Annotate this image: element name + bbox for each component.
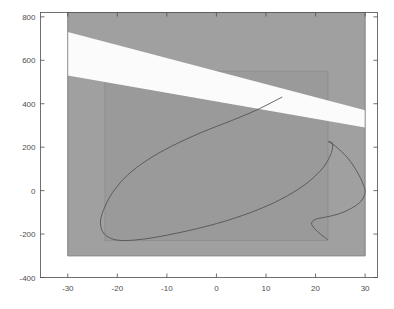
y-tick-label: 800 <box>22 13 36 22</box>
figure-container: -30-20-100102030-400-2000200400600800 <box>0 0 394 309</box>
y-tick-label: 0 <box>31 187 36 196</box>
y-tick-label: 200 <box>22 143 36 152</box>
x-tick-label: 20 <box>311 284 320 293</box>
chart-canvas: -30-20-100102030-400-2000200400600800 <box>0 0 394 309</box>
plot-regions-group <box>41 13 378 278</box>
y-tick-label: -400 <box>19 274 36 283</box>
x-tick-label: 10 <box>262 284 271 293</box>
x-tick-label: -30 <box>62 284 74 293</box>
x-tick-label: -20 <box>112 284 124 293</box>
y-tick-label: -200 <box>19 230 36 239</box>
x-tick-label: -10 <box>161 284 173 293</box>
x-tick-label: 0 <box>214 284 219 293</box>
y-tick-label: 400 <box>22 100 36 109</box>
y-tick-label: 600 <box>22 56 36 65</box>
x-tick-label: 30 <box>361 284 370 293</box>
